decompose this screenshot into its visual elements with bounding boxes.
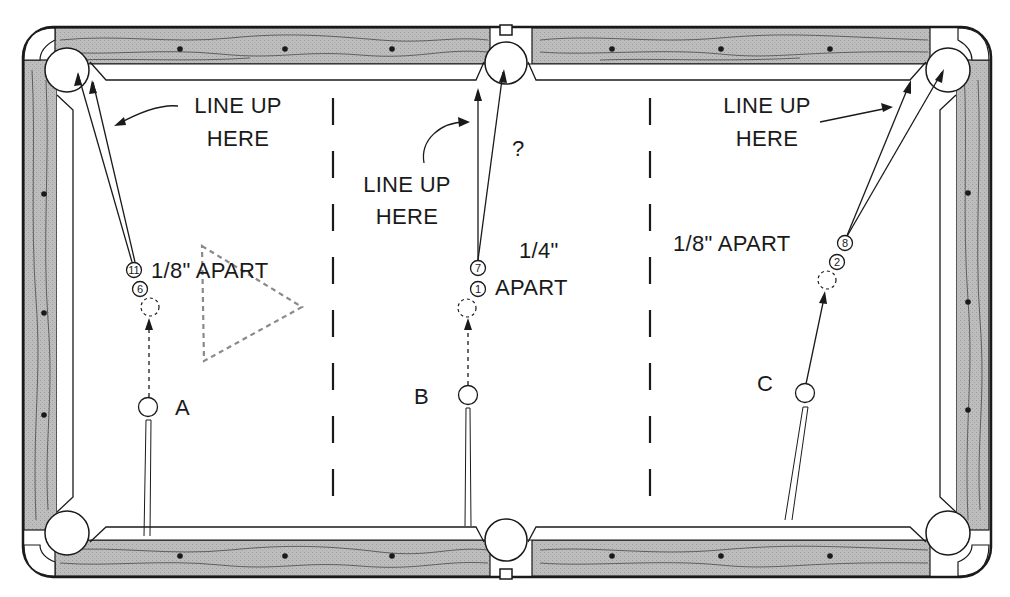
scenario-label-c: C [757,371,773,397]
callout-b-line2: HERE [352,204,462,230]
svg-text:2: 2 [834,256,840,268]
cue-ball-c [796,384,815,403]
cue-ball-b [459,386,478,405]
side-pocket-tab-bottom [500,569,512,579]
callout-c-line2: HERE [712,126,822,152]
scenario-label-a: A [175,395,190,421]
callout-a-line1: LINE UP [183,93,293,119]
callout-c-line1: LINE UP [712,93,822,119]
callout-a-line2: HERE [183,126,293,152]
svg-text:6: 6 [137,283,143,295]
svg-text:7: 7 [475,262,481,274]
spacing-label-b-line2: APART [495,275,568,301]
top-rail-right [532,28,930,64]
svg-text:11: 11 [128,264,139,276]
cue-ball-a [139,398,158,417]
svg-text:8: 8 [842,237,848,249]
pocket-bottom-left [45,511,89,555]
left-rail [24,60,57,530]
question-mark-b: ? [512,136,525,162]
spacing-label-b-line1: 1/4" [519,238,559,264]
pocket-top-side [485,42,527,84]
right-rail [956,60,989,530]
pocket-bottom-right [926,511,970,555]
pocket-top-right [926,48,970,92]
side-pocket-tab-top [500,25,512,35]
scenario-label-b: B [414,384,429,410]
spacing-label-c: 1/8" APART [673,231,791,257]
bottom-rail-right [532,540,930,576]
bottom-rail-left [55,540,490,576]
spacing-label-a: 1/8" APART [151,258,269,284]
callout-b-line1: LINE UP [352,172,462,198]
pocket-bottom-side [485,519,527,561]
top-rail-left [55,28,490,64]
pocket-top-left [45,48,89,92]
svg-text:1: 1 [475,283,481,295]
pool-table-diagram: 11 6 7 1 8 2 LINE UP HERE 1/8" APART A L… [0,0,1010,597]
